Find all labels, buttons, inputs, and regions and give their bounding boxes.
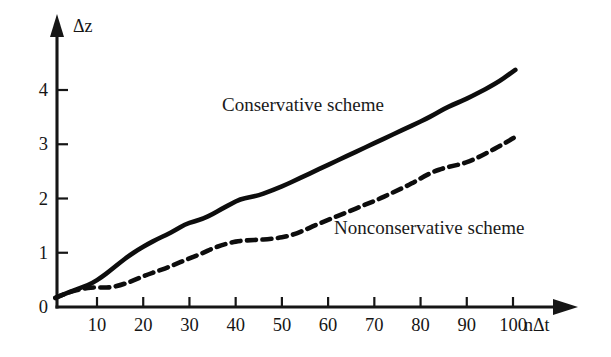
y-tick-marks: [57, 90, 68, 253]
x-tick-label: 100: [499, 316, 527, 335]
x-tick-label: 40: [226, 316, 245, 335]
x-axis-arrow-icon: [553, 299, 578, 315]
y-axis-title: Δz: [73, 17, 93, 35]
chart-plot-area: [0, 0, 611, 357]
y-tick-label: 0: [26, 298, 48, 317]
conservative-scheme-label: Conservative scheme: [222, 95, 384, 114]
x-tick-label: 80: [411, 316, 430, 335]
x-tick-label: 20: [134, 316, 153, 335]
y-tick-label: 4: [26, 81, 48, 100]
chart-figure: 01234 102030405060708090100 Δz nΔt Conse…: [0, 0, 611, 357]
x-tick-label: 10: [88, 316, 107, 335]
x-tick-label: 70: [365, 316, 384, 335]
axes-group: [50, 14, 578, 315]
x-tick-label: 50: [273, 316, 292, 335]
y-tick-label: 2: [26, 189, 48, 208]
nonconservative-scheme-label: Nonconservative scheme: [334, 218, 524, 237]
y-axis-arrow-icon: [50, 14, 64, 37]
x-tick-label: 90: [458, 316, 477, 335]
x-axis-title: nΔt: [524, 316, 550, 334]
y-tick-label: 1: [26, 244, 48, 263]
y-tick-label: 3: [26, 135, 48, 154]
x-tick-label: 30: [180, 316, 199, 335]
x-tick-label: 60: [319, 316, 338, 335]
